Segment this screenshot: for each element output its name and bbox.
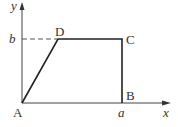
geometry-diagram: y x b a A B C D	[0, 0, 178, 127]
point-label-c: C	[126, 32, 135, 47]
shape-adcb	[22, 39, 122, 103]
x-axis	[22, 101, 171, 106]
x-tick-label-a: a	[118, 105, 125, 120]
y-axis-label: y	[9, 0, 17, 13]
y-axis-arrow-icon	[20, 2, 25, 10]
point-label-b: B	[126, 88, 135, 103]
y-axis	[20, 2, 25, 103]
point-label-a: A	[13, 105, 23, 120]
y-tick-label-b: b	[9, 31, 16, 46]
point-label-d: D	[55, 24, 64, 39]
x-axis-label: x	[162, 105, 169, 120]
